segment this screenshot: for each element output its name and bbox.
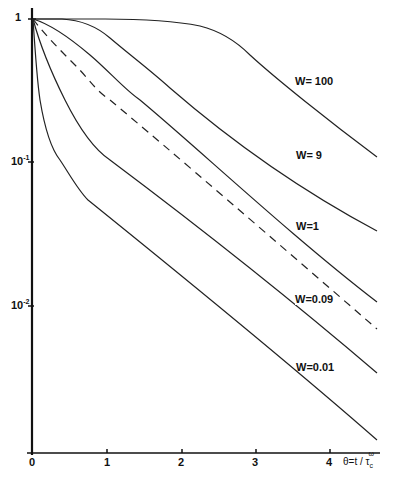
chart-plot-area (0, 0, 395, 477)
y-tick-label-10e-1: 10-1 (11, 154, 29, 167)
label-w9: W= 9 (296, 149, 322, 161)
y-tick-exponent: -2 (23, 298, 29, 305)
label-w001: W=0.01 (296, 361, 334, 373)
y-tick-base: 10 (11, 155, 23, 167)
curve-w100 (33, 19, 377, 157)
y-tick-exponent: -1 (23, 154, 29, 161)
x-tick-label-1: 1 (104, 456, 110, 468)
label-w009: W=0.09 (295, 293, 333, 305)
curve-dashed (33, 19, 377, 329)
y-tick-label-10e-2: 10-2 (11, 298, 29, 311)
x-tick-label-4: 4 (326, 456, 332, 468)
y-tick-label-1: 1 (15, 11, 21, 23)
x-axis-label: θ=t / τcω (343, 456, 373, 469)
label-w100: W= 100 (295, 75, 333, 87)
x-tick-label-2: 2 (178, 456, 184, 468)
x-tick-label-0: 0 (29, 456, 35, 468)
curve-w1 (33, 19, 377, 302)
y-tick-base: 10 (11, 299, 23, 311)
x-tick-label-3: 3 (252, 456, 258, 468)
label-w1: W=1 (296, 220, 319, 232)
